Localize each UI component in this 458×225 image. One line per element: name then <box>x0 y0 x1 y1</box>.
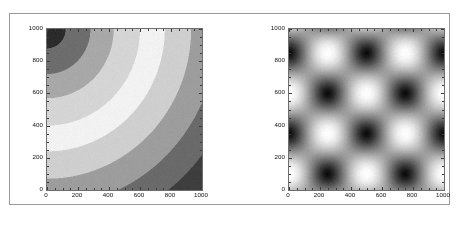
y-minor-tickmark <box>200 150 202 151</box>
x-tick-label: 0 <box>286 192 290 198</box>
y-minor-tickmark <box>289 85 291 86</box>
x-tickmark <box>413 187 414 190</box>
x-minor-tickmark <box>374 29 375 31</box>
x-tickmark <box>413 29 414 32</box>
x-minor-tickmark <box>367 188 368 190</box>
y-minor-tickmark <box>289 142 291 143</box>
x-minor-tickmark <box>359 29 360 31</box>
y-minor-tickmark <box>47 134 49 135</box>
y-tickmark <box>441 93 444 94</box>
x-tickmark <box>202 29 203 32</box>
y-tickmark <box>441 29 444 30</box>
x-minor-tickmark <box>194 29 195 31</box>
x-minor-tickmark <box>94 29 95 31</box>
x-tickmark <box>351 187 352 190</box>
y-minor-tickmark <box>289 166 291 167</box>
x-tick-label: 0 <box>44 192 48 198</box>
y-tickmark <box>441 126 444 127</box>
y-tickmark <box>47 158 50 159</box>
y-tickmark <box>289 126 292 127</box>
y-minor-tickmark <box>442 150 444 151</box>
y-minor-tickmark <box>47 150 49 151</box>
y-tickmark <box>47 61 50 62</box>
y-tickmark <box>289 29 292 30</box>
y-minor-tickmark <box>289 118 291 119</box>
x-minor-tickmark <box>156 29 157 31</box>
y-minor-tickmark <box>442 142 444 143</box>
x-tick-label: 800 <box>165 192 176 198</box>
x-minor-tickmark <box>63 188 64 190</box>
x-tickmark <box>382 187 383 190</box>
right-periodic-panel: 02004006008001000 02004006008001000 <box>230 14 451 206</box>
y-tickmark <box>199 29 202 30</box>
x-minor-tickmark <box>132 188 133 190</box>
x-tick-label: 400 <box>103 192 114 198</box>
x-minor-tickmark <box>148 29 149 31</box>
y-minor-tickmark <box>289 101 291 102</box>
y-tick-label: 600 <box>264 89 285 95</box>
left-contour-panel: 02004006008001000 02004006008001000 <box>10 14 230 206</box>
x-minor-tickmark <box>132 29 133 31</box>
y-minor-tickmark <box>200 174 202 175</box>
x-tickmark <box>351 29 352 32</box>
y-minor-tickmark <box>442 85 444 86</box>
x-minor-tickmark <box>429 188 430 190</box>
x-minor-tickmark <box>398 29 399 31</box>
x-minor-tickmark <box>374 188 375 190</box>
x-minor-tickmark <box>101 29 102 31</box>
y-minor-tickmark <box>442 166 444 167</box>
y-minor-tickmark <box>47 85 49 86</box>
x-tickmark <box>78 29 79 32</box>
x-minor-tickmark <box>156 188 157 190</box>
x-minor-tickmark <box>297 29 298 31</box>
y-tick-label: 600 <box>22 89 43 95</box>
y-tickmark <box>47 126 50 127</box>
y-minor-tickmark <box>47 182 49 183</box>
x-tickmark <box>444 187 445 190</box>
x-tickmark <box>382 29 383 32</box>
x-minor-tickmark <box>94 188 95 190</box>
y-minor-tickmark <box>289 182 291 183</box>
y-tickmark <box>47 29 50 30</box>
y-tick-label: 0 <box>22 186 43 192</box>
y-minor-tickmark <box>442 134 444 135</box>
y-minor-tickmark <box>289 174 291 175</box>
y-minor-tickmark <box>200 118 202 119</box>
x-minor-tickmark <box>367 29 368 31</box>
x-minor-tickmark <box>405 29 406 31</box>
x-minor-tickmark <box>163 188 164 190</box>
y-tickmark <box>289 93 292 94</box>
y-tickmark <box>47 93 50 94</box>
x-minor-tickmark <box>429 29 430 31</box>
y-minor-tickmark <box>200 77 202 78</box>
y-minor-tickmark <box>289 53 291 54</box>
y-minor-tickmark <box>47 101 49 102</box>
x-minor-tickmark <box>63 29 64 31</box>
y-minor-tickmark <box>47 53 49 54</box>
x-minor-tickmark <box>125 29 126 31</box>
y-minor-tickmark <box>47 174 49 175</box>
x-tick-label: 600 <box>376 192 387 198</box>
y-minor-tickmark <box>442 101 444 102</box>
right-plot-axes <box>288 28 445 191</box>
x-tick-label: 1000 <box>194 192 208 198</box>
x-tick-label: 400 <box>345 192 356 198</box>
x-minor-tickmark <box>359 188 360 190</box>
y-minor-tickmark <box>47 110 49 111</box>
y-tickmark <box>199 158 202 159</box>
x-minor-tickmark <box>312 29 313 31</box>
x-minor-tickmark <box>421 29 422 31</box>
x-tick-label: 600 <box>134 192 145 198</box>
y-minor-tickmark <box>47 118 49 119</box>
x-minor-tickmark <box>297 188 298 190</box>
x-minor-tickmark <box>101 188 102 190</box>
x-tickmark <box>171 29 172 32</box>
y-minor-tickmark <box>442 118 444 119</box>
x-tickmark <box>140 29 141 32</box>
y-tick-label: 800 <box>22 57 43 63</box>
x-minor-tickmark <box>86 29 87 31</box>
x-tickmark <box>444 29 445 32</box>
y-minor-tickmark <box>47 166 49 167</box>
x-minor-tickmark <box>336 29 337 31</box>
y-tickmark <box>441 158 444 159</box>
